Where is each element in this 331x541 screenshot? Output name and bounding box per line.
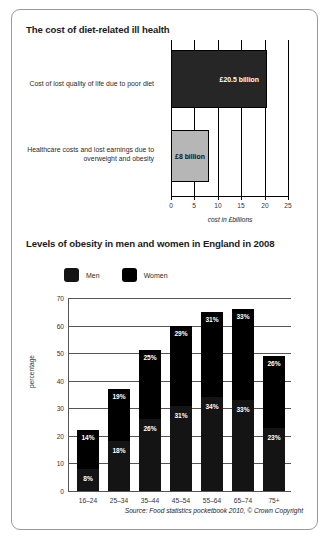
bar-segment-women: 25% [139,350,161,419]
y-tick-label: 20 [57,432,64,439]
bar-segment-women: 29% [170,326,192,406]
bar-value-women: 31% [201,316,223,323]
y-tick-label: 50 [57,350,64,357]
axis-tick [171,196,172,200]
obesity-bar-group: 19% 18% [108,389,130,491]
gridline: 70 [69,298,291,299]
bar-value-men: 31% [170,412,192,419]
cost-bar: £8 billion [171,130,209,182]
bar-segment-women: 33% [232,309,254,400]
y-tick-label: 60 [57,322,64,329]
axis-tick [265,196,266,200]
bar-value-men: 18% [108,447,130,454]
bar-value-men: 23% [263,434,285,441]
bar-segment-men: 23% [263,428,285,491]
cost-chart-x-axis [171,196,289,197]
obesity-bar-group: 33% 33% [232,309,254,491]
axis-tick [241,196,242,200]
axis-tick [218,196,219,200]
cost-bar-value: £8 billion [175,153,205,160]
bar-value-women: 26% [263,360,285,367]
gridline: 0 [69,491,291,492]
x-tick-label: 15 [237,202,244,209]
bar-segment-women: 31% [201,312,223,398]
bar-segment-men: 8% [77,469,99,491]
y-tick-label: 70 [57,295,64,302]
obesity-chart-title: Levels of obesity in men and women in En… [26,238,274,249]
x-tick-label: 75+ [254,497,294,504]
legend-item-men: Men [64,268,100,282]
axis-tick [288,196,289,200]
bar-segment-women: 14% [77,430,99,469]
cost-bar-value: £20.5 billion [220,76,266,83]
bar-segment-men: 33% [232,400,254,491]
cost-chart-plot-area: £20.5 billion £8 billion [171,40,289,196]
axis-tick [194,196,195,200]
legend-label-women: Women [144,272,168,279]
obesity-chart-legend: Men Women [64,266,190,284]
y-tick-label: 30 [57,405,64,412]
legend-item-women: Women [122,268,168,282]
bar-value-women: 25% [139,354,161,361]
legend-label-men: Men [86,272,100,279]
top-chart-title: The cost of diet-related ill health [26,24,170,35]
bar-segment-women: 19% [108,389,130,441]
obesity-bar-group: 26% 23% [263,356,285,491]
x-tick-label: 25 [284,202,291,209]
y-tick-label: 40 [57,377,64,384]
x-tick-label: 0 [169,202,173,209]
bar-value-women: 29% [170,330,192,337]
obesity-bar-group: 25% 26% [139,350,161,491]
bar-value-women: 33% [232,313,254,320]
obesity-chart: Men Women percentage 70 60 50 40 30 [12,258,319,528]
cost-category-label: Cost of lost quality of life due to poor… [14,79,154,88]
bar-value-women: 19% [108,393,130,400]
bar-value-women: 14% [77,434,99,441]
legend-swatch-women [122,268,137,282]
bar-value-men: 34% [201,403,223,410]
cost-chart: Cost of lost quality of life due to poor… [12,40,319,230]
infographic-card: The cost of diet-related ill health Cost… [11,9,318,530]
bar-value-men: 8% [77,475,99,482]
cost-chart-x-axis-title: cost in £billions [171,216,289,223]
obesity-chart-y-axis-title: percentage [28,355,35,388]
x-tick-label: 10 [214,202,221,209]
bar-segment-men: 18% [108,441,130,491]
gridline [288,40,289,196]
obesity-chart-plot-area: 70 60 50 40 30 20 10 0 [68,298,291,492]
bar-value-men: 26% [139,425,161,432]
cost-chart-category-labels: Cost of lost quality of life due to poor… [12,40,164,200]
bar-segment-women: 26% [263,356,285,428]
legend-swatch-men [64,268,79,282]
bar-value-men: 33% [232,406,254,413]
cost-category-label: Healthcare costs and lost earnings due t… [14,145,154,164]
bar-segment-men: 31% [170,406,192,492]
x-tick-label: 20 [261,202,268,209]
cost-bar: £20.5 billion [171,50,267,108]
bar-segment-men: 34% [201,397,223,491]
obesity-bar-group: 31% 34% [201,312,223,491]
y-tick-label: 0 [60,488,64,495]
x-tick-label: 5 [192,202,196,209]
obesity-bar-group: 29% 31% [170,326,192,491]
y-tick-label: 10 [57,460,64,467]
bar-segment-men: 26% [139,419,161,491]
source-caption: Source: Food statistics pocketbook 2010,… [125,507,303,514]
obesity-bar-group: 14% 8% [77,430,99,491]
